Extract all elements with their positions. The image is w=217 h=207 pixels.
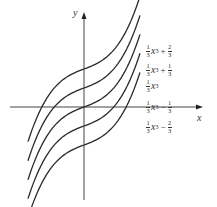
y-axis-label: y xyxy=(73,7,77,18)
curve-label: 13x3−23 xyxy=(146,120,173,134)
x-axis-arrow-icon xyxy=(196,105,203,110)
curve-label: 13x3+13 xyxy=(146,63,173,77)
y-axis-arrow-icon xyxy=(82,12,87,19)
chart-plot-area xyxy=(0,0,217,207)
x-axis-label: x xyxy=(197,112,201,123)
curve-label: 13x3 xyxy=(146,79,158,93)
curve-label: 13x3−13 xyxy=(146,100,173,114)
curve-label: 13x3+23 xyxy=(146,44,173,58)
